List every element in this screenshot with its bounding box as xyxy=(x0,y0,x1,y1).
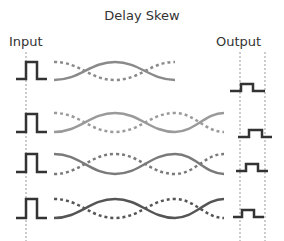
input-pulse xyxy=(16,62,47,79)
row-4 xyxy=(16,199,264,218)
input-pulse xyxy=(16,114,47,132)
output-pulse xyxy=(233,210,264,217)
row-3 xyxy=(16,154,268,174)
delay-skew-diagram xyxy=(0,0,284,241)
output-pulse xyxy=(236,164,268,171)
output-pulse xyxy=(238,130,272,137)
output-pulse xyxy=(230,84,265,91)
row-2 xyxy=(16,113,272,137)
twisted-pair-solid xyxy=(54,113,224,132)
input-pulse xyxy=(16,154,47,172)
twisted-pair-solid xyxy=(54,154,224,174)
input-pulse xyxy=(16,199,47,218)
row-1 xyxy=(16,62,265,91)
twisted-pair-solid xyxy=(54,199,224,218)
